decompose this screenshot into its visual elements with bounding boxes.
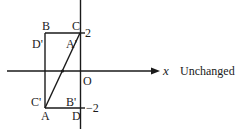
label-x-axis: x bbox=[162, 63, 169, 78]
x-axis-arrowhead-icon bbox=[151, 68, 160, 75]
label-tick-2: 2 bbox=[85, 26, 91, 40]
center-point bbox=[61, 69, 64, 72]
label-B-prime: B' bbox=[66, 95, 76, 109]
label-tick-neg2: −2 bbox=[86, 101, 99, 115]
label-A-prime: A' bbox=[66, 37, 77, 51]
transformation-diagram: B C D' A' 2 O x Unchanged C' B' A D −2 bbox=[0, 0, 241, 131]
label-D-prime: D' bbox=[32, 37, 43, 51]
label-A: A bbox=[41, 109, 50, 123]
label-D: D bbox=[72, 109, 81, 123]
label-C: C bbox=[72, 19, 80, 33]
label-B: B bbox=[42, 19, 50, 33]
annotation-unchanged: Unchanged bbox=[180, 64, 235, 78]
label-origin: O bbox=[83, 74, 92, 88]
label-C-prime: C' bbox=[31, 95, 41, 109]
